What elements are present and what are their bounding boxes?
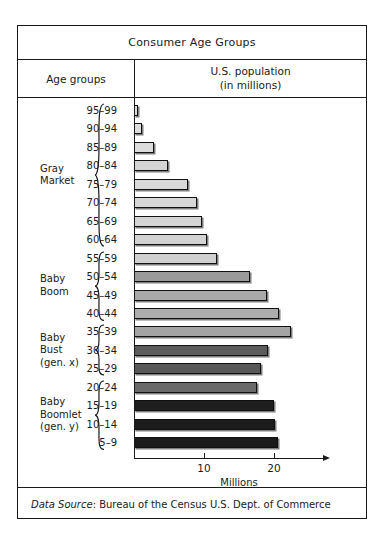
- age-group-label: 60–64: [67, 235, 117, 245]
- axis-tick: [204, 453, 205, 459]
- population-bar: [134, 234, 207, 245]
- population-bar: [134, 437, 278, 448]
- age-groups-header-label: Age groups: [46, 73, 106, 85]
- age-group-label: 65–69: [67, 217, 117, 227]
- population-header-label: U.S. population (in millions): [210, 65, 290, 91]
- source-prefix: Data Source: [31, 499, 93, 510]
- population-bar: [134, 308, 279, 319]
- source-row: Data Source: Bureau of the Census U.S. D…: [18, 488, 366, 520]
- group-brace-baby-boomlet: [94, 380, 105, 450]
- group-brace-baby-boom: [94, 251, 105, 321]
- population-bar: [134, 400, 274, 411]
- population-bar: [134, 197, 197, 208]
- axis-tick-label: 10: [189, 462, 219, 474]
- population-bar: [134, 382, 257, 393]
- group-brace-baby-bust: [94, 324, 105, 376]
- population-bar: [134, 271, 250, 282]
- population-bar: [134, 123, 142, 134]
- population-bar: [134, 253, 217, 264]
- axis-tick: [274, 453, 275, 459]
- figure-title: Consumer Age Groups: [128, 36, 255, 49]
- age-group-label: 40–44: [67, 309, 117, 319]
- population-column-header: U.S. population (in millions): [135, 60, 366, 97]
- source-rest: : Bureau of the Census U.S. Dept. of Com…: [93, 499, 331, 510]
- population-bar: [134, 419, 275, 430]
- population-bar: [134, 216, 202, 227]
- axis-arrow-icon: [323, 455, 330, 461]
- population-bar: [134, 363, 261, 374]
- age-groups-column-header: Age groups: [18, 60, 135, 97]
- population-bar: [134, 290, 267, 301]
- axis-vertical-line: [134, 98, 135, 459]
- figure-title-row: Consumer Age Groups: [18, 26, 366, 60]
- population-bar: [134, 345, 268, 356]
- axis-title: Millions: [194, 477, 284, 488]
- age-group-label: 95–99: [67, 106, 117, 116]
- age-group-label: 85–89: [67, 143, 117, 153]
- group-brace-gray-market: [94, 103, 105, 247]
- population-header-line1: U.S. population: [210, 65, 290, 77]
- axis-horizontal-line: [134, 458, 323, 459]
- age-group-label: 55–59: [67, 254, 117, 264]
- age-group-label: 20–24: [67, 383, 117, 393]
- population-bar: [134, 179, 188, 190]
- column-header-row: Age groups U.S. population (in millions): [18, 60, 366, 98]
- population-bar: [134, 142, 154, 153]
- chart-plot-area: 95–9990–9485–8980–8475–7970–7465–6960–64…: [18, 98, 366, 488]
- axis-tick-label: 20: [259, 462, 289, 474]
- source-note: Data Source: Bureau of the Census U.S. D…: [31, 499, 331, 510]
- age-group-label: 90–94: [67, 124, 117, 134]
- age-group-label: 70–74: [67, 198, 117, 208]
- consumer-age-groups-figure: Consumer Age Groups Age groups U.S. popu…: [17, 25, 367, 519]
- population-bar: [134, 160, 168, 171]
- population-header-line2: (in millions): [220, 79, 282, 91]
- age-group-label: 5–9: [67, 438, 117, 448]
- population-bar: [134, 326, 291, 337]
